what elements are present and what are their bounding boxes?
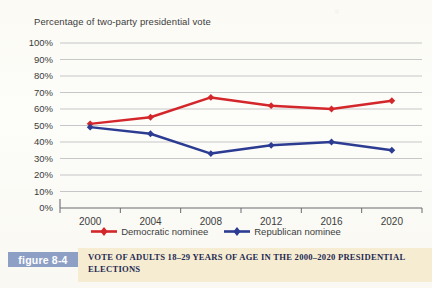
- data-point-marker[interactable]: [328, 139, 335, 146]
- ytick-label: 60%: [34, 103, 54, 114]
- data-point-marker[interactable]: [147, 114, 154, 121]
- legend-item-democratic[interactable]: Democratic nominee: [91, 226, 208, 237]
- chart-plot-area: 0%10%20%30%40%50%60%70%80%90%100% 200020…: [0, 0, 432, 288]
- data-point-marker[interactable]: [147, 130, 154, 137]
- figure-container: Percentage of two-party presidential vot…: [0, 0, 432, 288]
- data-point-marker[interactable]: [207, 94, 214, 101]
- ytick-label: 30%: [34, 153, 54, 164]
- ytick-label: 90%: [34, 54, 54, 65]
- series-line-republican: [90, 127, 392, 153]
- ytick-label: 70%: [34, 87, 54, 98]
- ytick-label: 50%: [34, 120, 54, 131]
- ytick-label: 0%: [39, 202, 53, 213]
- data-point-marker[interactable]: [268, 142, 275, 149]
- ytick-label: 40%: [34, 136, 54, 147]
- legend-swatch-republican: [224, 226, 250, 237]
- figure-number-badge: figure 8-4: [8, 252, 78, 267]
- legend-item-republican[interactable]: Republican nominee: [224, 226, 341, 237]
- data-point-marker[interactable]: [268, 102, 275, 109]
- legend-label-democratic: Democratic nominee: [121, 226, 208, 237]
- data-point-marker[interactable]: [388, 97, 395, 104]
- series-line-democratic: [90, 97, 392, 123]
- legend-label-republican: Republican nominee: [254, 226, 341, 237]
- ytick-label: 100%: [29, 37, 54, 48]
- ytick-label: 20%: [34, 169, 54, 180]
- data-point-marker[interactable]: [328, 106, 335, 113]
- data-point-marker[interactable]: [388, 147, 395, 154]
- figure-caption-text: VOTE OF ADULTS 18–29 YEARS OF AGE IN THE…: [88, 252, 424, 275]
- ytick-label: 80%: [34, 70, 54, 81]
- data-point-marker[interactable]: [207, 150, 214, 157]
- chart-legend: Democratic nominee Republican nominee: [0, 226, 432, 237]
- xaxis-group: [60, 199, 422, 213]
- gridlines-group: [60, 43, 422, 192]
- ytick-label: 10%: [34, 186, 54, 197]
- line-chart-svg: 0%10%20%30%40%50%60%70%80%90%100% 200020…: [0, 0, 432, 230]
- figure-caption-bar: figure 8-4 VOTE OF ADULTS 18–29 YEARS OF…: [8, 252, 432, 282]
- ytick-labels-group: 0%10%20%30%40%50%60%70%80%90%100%: [29, 37, 54, 213]
- legend-swatch-democratic: [91, 226, 117, 237]
